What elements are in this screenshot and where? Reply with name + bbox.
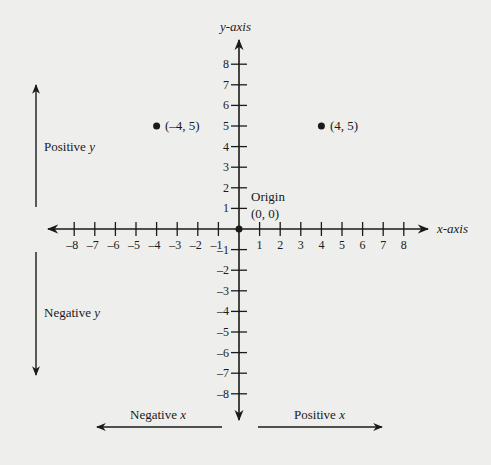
y-tick-label: –1 xyxy=(199,244,229,256)
y-tick-label: 2 xyxy=(199,182,229,194)
positive-y-var: y xyxy=(89,139,95,154)
negative-y-word: Negative xyxy=(44,305,91,320)
x-tick-label: 2 xyxy=(277,239,283,251)
y-tick-label: –3 xyxy=(199,285,229,297)
x-tick-label: 7 xyxy=(380,239,386,251)
y-tick-label: –8 xyxy=(199,388,229,400)
y-tick-label: 3 xyxy=(199,161,229,173)
origin-label: Origin xyxy=(251,190,285,203)
x-tick-label: –5 xyxy=(128,239,140,251)
y-tick-label: –7 xyxy=(199,367,229,379)
y-tick-label: –6 xyxy=(199,347,229,359)
origin-coords: (0, 0) xyxy=(251,207,279,220)
y-tick-label: 8 xyxy=(199,58,229,70)
y-tick-label: 5 xyxy=(199,120,229,132)
positive-y-word: Positive xyxy=(44,139,86,154)
positive-y-label: Positive y xyxy=(44,140,95,153)
point-label-4-5: (4, 5) xyxy=(330,119,358,132)
positive-x-var: x xyxy=(339,407,345,422)
y-tick-label: –2 xyxy=(199,264,229,276)
axes-svg xyxy=(0,0,491,465)
negative-y-label: Negative y xyxy=(44,306,100,319)
plotted-point xyxy=(153,123,160,130)
x-tick-label: 4 xyxy=(318,239,324,251)
y-tick-label: –5 xyxy=(199,326,229,338)
x-tick-label: 5 xyxy=(339,239,345,251)
x-tick-label: –7 xyxy=(87,239,99,251)
coordinate-plane-diagram: y-axis x-axis –8–7–6–5–4–3–2–112345678 8… xyxy=(0,0,491,465)
x-tick-label: 6 xyxy=(360,239,366,251)
negative-y-var: y xyxy=(94,305,100,320)
negative-x-label: Negative x xyxy=(130,408,186,421)
x-axis-label: x-axis xyxy=(437,222,468,235)
x-tick-label: –3 xyxy=(169,239,181,251)
positive-x-word: Positive xyxy=(294,407,336,422)
y-tick-label: 4 xyxy=(199,141,229,153)
y-tick-label: –4 xyxy=(199,305,229,317)
x-tick-label: –4 xyxy=(149,239,161,251)
x-tick-label: –8 xyxy=(66,239,78,251)
y-tick-label: 1 xyxy=(199,202,229,214)
y-tick-label: 7 xyxy=(199,79,229,91)
x-tick-label: 3 xyxy=(298,239,304,251)
plotted-point xyxy=(318,123,325,130)
x-tick-label: –6 xyxy=(107,239,119,251)
y-axis-label: y-axis xyxy=(220,20,251,33)
x-tick-label: 8 xyxy=(401,239,407,251)
origin-point xyxy=(236,226,243,233)
negative-x-word: Negative xyxy=(130,407,177,422)
y-tick-label: 6 xyxy=(199,99,229,111)
x-tick-label: 1 xyxy=(257,239,263,251)
point-label-neg4-5: (–4, 5) xyxy=(165,119,200,132)
negative-x-var: x xyxy=(180,407,186,422)
positive-x-label: Positive x xyxy=(294,408,345,421)
